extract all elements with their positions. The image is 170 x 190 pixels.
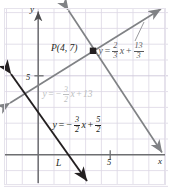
eq-faded-plus: +	[76, 90, 82, 100]
equation-faded-line: y = − 3 2 x + 13	[42, 86, 93, 104]
eq-rising-plus: +	[125, 46, 132, 56]
eq-dark-slope-numerator: 3	[74, 116, 80, 124]
eq-faded-intercept: 13	[83, 90, 93, 100]
eq-rising-equals: =	[104, 46, 111, 56]
x-tick-label-5: 5	[107, 158, 111, 167]
eq-dark-intercept-numerator: 5	[95, 116, 101, 124]
eq-rising-intercept-fraction: 13 3	[134, 42, 144, 60]
eq-faded-minus: −	[55, 90, 61, 100]
y-axis-label: y	[30, 5, 34, 14]
eq-faded-slope-fraction: 3 2	[63, 86, 69, 104]
eq-faded-lhs: y	[43, 90, 47, 100]
equation-rising-line: y = 2 3 x + 13 3	[98, 42, 145, 60]
eq-faded-equals: =	[48, 90, 54, 100]
eq-dark-intercept-denominator: 2	[95, 126, 101, 134]
line-label-L: L	[56, 159, 61, 169]
eq-dark-intercept-fraction: 5 2	[95, 116, 101, 134]
eq-rising-intercept-denominator: 3	[136, 52, 142, 60]
eq-dark-slope-denominator: 2	[74, 126, 80, 134]
eq-rising-variable: x	[120, 46, 124, 56]
eq-rising-lhs: y	[99, 46, 103, 56]
eq-dark-minus: −	[66, 120, 73, 130]
eq-dark-variable: x	[82, 120, 86, 130]
eq-dark-plus: +	[87, 120, 94, 130]
eq-rising-slope-numerator: 2	[112, 42, 118, 50]
eq-rising-intercept-numerator: 13	[134, 42, 144, 50]
eq-dark-slope-fraction: 3 2	[74, 116, 80, 134]
point-P-marker	[90, 48, 96, 54]
x-axis-label: x	[158, 157, 162, 166]
eq-faded-slope-denominator: 2	[63, 96, 69, 104]
point-label-P: P(4, 7)	[51, 44, 77, 54]
y-tick-label-5: 5	[26, 73, 30, 82]
eq-faded-slope-numerator: 3	[63, 86, 69, 94]
eq-dark-equals: =	[58, 120, 65, 130]
graph-figure: y x 5 5 P(4, 7) L y = 2 3 x + 13 3 y = −…	[0, 0, 170, 190]
eq-dark-lhs: y	[53, 120, 57, 130]
eq-rising-slope-denominator: 3	[112, 52, 118, 60]
equation-line-L: y = − 3 2 x + 5 2	[52, 116, 102, 134]
eq-faded-variable: x	[70, 90, 74, 100]
eq-rising-slope-fraction: 2 3	[112, 42, 118, 60]
